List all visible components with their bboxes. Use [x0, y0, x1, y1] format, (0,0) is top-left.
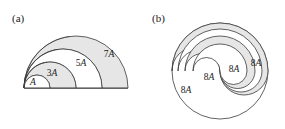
region-8a-1-letter: A	[184, 85, 191, 95]
region-a-letter: A	[29, 77, 36, 87]
region-8a-2-letter: A	[207, 72, 214, 82]
region-5a-label: 5A	[76, 58, 87, 68]
region-7a-label: 7A	[104, 49, 115, 59]
region-3a-label: 3A	[47, 68, 58, 78]
panel-b: (b) 8A 8A 8A 8A	[152, 12, 268, 119]
panel-a: (a) A 3A 5A 7A	[12, 12, 128, 88]
region-8a-1-label: 8A	[181, 85, 192, 95]
panel-a-label: (a)	[12, 12, 25, 25]
panel-b-label: (b)	[152, 12, 165, 25]
region-7a-letter: A	[107, 49, 114, 59]
region-5a-letter: A	[79, 58, 86, 68]
region-8a-3-letter: A	[232, 64, 239, 74]
region-8a-3-label: 8A	[229, 64, 240, 74]
region-8a-4-letter: A	[254, 58, 261, 68]
region-8a-2-label: 8A	[204, 72, 215, 82]
math-figure-semicircles-and-circle: (a) A 3A 5A 7A (b) 8A	[0, 0, 285, 129]
region-3a-letter: A	[50, 68, 57, 78]
region-8a-4-label: 8A	[251, 58, 262, 68]
region-a-label: A	[29, 77, 36, 87]
